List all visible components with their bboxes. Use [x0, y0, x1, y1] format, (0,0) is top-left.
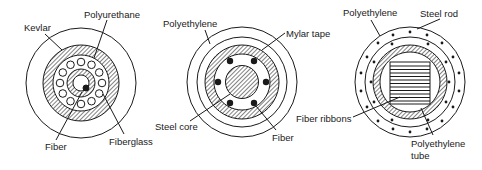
cable-3	[353, 19, 465, 137]
label-steel-rod: Steel rod	[420, 8, 458, 19]
fiber-ribbons-stack	[390, 62, 430, 104]
label-kevlar: Kevlar	[24, 22, 51, 33]
steel-core	[226, 66, 259, 99]
fiberglass-strands	[56, 58, 106, 108]
mylar-tape-leader	[262, 33, 285, 50]
label-polyethylene-tube-line2: tube	[411, 150, 430, 161]
label-polyethylene-tube-line1: Polyethylene	[411, 138, 465, 149]
steel-rod-leader	[417, 19, 440, 29]
label-polyethylene: Polyethylene	[163, 18, 217, 29]
cable-2	[187, 27, 297, 137]
label-fiber-ribbons: Fiber ribbons	[296, 113, 352, 124]
kevlar-leader	[45, 34, 62, 50]
cable-cross-sections-figure: Kevlar Polyurethane Fiber Fiberglass Pol…	[0, 0, 482, 170]
label-fiber: Fiber	[45, 141, 67, 152]
cable-1	[26, 20, 136, 140]
polyethylene-leader	[371, 20, 380, 36]
polyethylene-leader	[205, 30, 210, 44]
label-mylar-tape: Mylar tape	[286, 28, 330, 39]
label-fiberglass: Fiberglass	[109, 136, 153, 147]
kevlar-ring	[43, 45, 119, 121]
fiber-core-dot	[83, 85, 89, 91]
label-fiber: Fiber	[272, 132, 294, 143]
label-steel-core: Steel core	[155, 121, 198, 132]
label-polyurethane: Polyurethane	[84, 9, 140, 20]
label-polyethylene: Polyethylene	[343, 7, 397, 18]
